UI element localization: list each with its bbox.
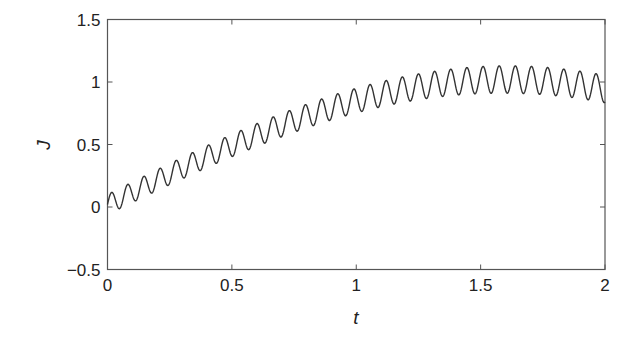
x-tick-label: 0: [103, 276, 112, 295]
axes-box: [108, 20, 606, 270]
x-axis-label: t: [353, 307, 359, 328]
y-axis-label: J: [33, 140, 54, 151]
x-tick-label: 2: [600, 276, 609, 295]
x-tick-label: 0.5: [220, 276, 244, 295]
x-axis-ticks: 00.511.52: [103, 20, 610, 295]
data-series-j: [108, 66, 606, 209]
x-tick-label: 1: [352, 276, 361, 295]
x-tick-label: 1.5: [469, 276, 493, 295]
y-tick-label: 0: [91, 198, 100, 217]
y-tick-label: −0.5: [67, 261, 101, 280]
y-axis-ticks: −0.500.511.5: [67, 11, 605, 280]
y-tick-label: 0.5: [77, 136, 101, 155]
plot-area-frame: [108, 20, 606, 270]
y-tick-label: 1: [91, 73, 100, 92]
line-chart: 00.511.52 −0.500.511.5 t J: [0, 0, 634, 340]
y-tick-label: 1.5: [77, 11, 101, 30]
line-j-of-t: [108, 66, 606, 209]
